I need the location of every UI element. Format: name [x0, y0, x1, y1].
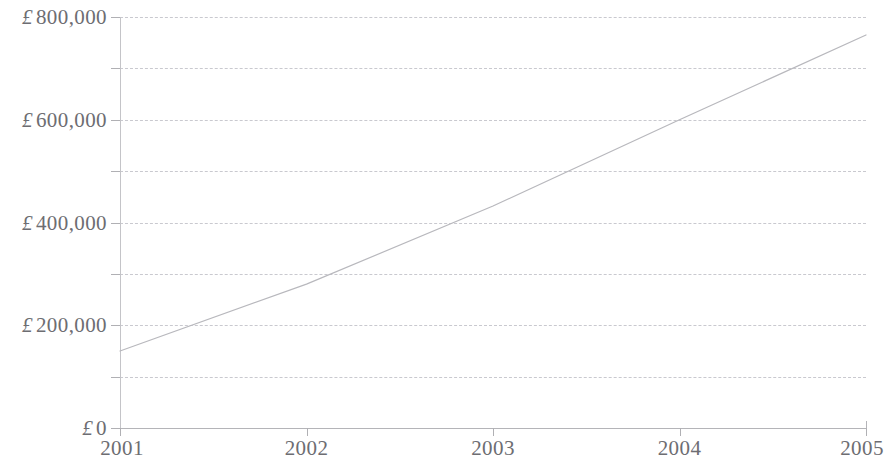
y-tick-600000 [111, 120, 120, 121]
y-tick-400000 [111, 223, 120, 224]
gridline-700000 [120, 68, 866, 69]
y-tick-700000 [111, 68, 120, 69]
gridline-400000 [120, 223, 866, 224]
currency-symbol-icon: £ [22, 211, 36, 235]
y-axis-label-value: 400,000 [36, 211, 107, 235]
gridline-200000 [120, 325, 866, 326]
y-axis-label-800000: £800,000 [22, 7, 107, 28]
plot-area [120, 17, 866, 428]
x-axis-label-2004: 2004 [658, 438, 702, 459]
y-axis-label-value: 600,000 [36, 108, 107, 132]
x-tick-2001 [120, 428, 121, 436]
gridline-300000 [120, 274, 866, 275]
y-axis-label-value: 200,000 [36, 313, 107, 337]
y-axis-label-400000: £400,000 [22, 213, 107, 234]
y-tick-800000 [111, 17, 120, 18]
y-tick-500000 [111, 171, 120, 172]
x-axis-label-2005: 2005 [840, 438, 884, 459]
y-axis-line [120, 17, 121, 428]
currency-symbol-icon: £ [22, 5, 36, 29]
x-tick-2003 [493, 428, 494, 436]
currency-symbol-icon: £ [82, 416, 96, 440]
currency-symbol-icon: £ [22, 108, 36, 132]
gridline-100000 [120, 377, 866, 378]
x-axis-label-2002: 2002 [285, 438, 329, 459]
x-axis-label-2001: 2001 [100, 438, 144, 459]
x-axis-label-2003: 2003 [471, 438, 515, 459]
x-tick-2005 [866, 428, 867, 436]
currency-symbol-icon: £ [22, 313, 36, 337]
line-chart: £800,000 £600,000 £400,000 £200,000 £0 2… [0, 0, 888, 464]
y-axis-label-600000: £600,000 [22, 110, 107, 131]
y-tick-100000 [111, 377, 120, 378]
y-axis-labels: £800,000 £600,000 £400,000 £200,000 £0 [0, 0, 107, 464]
y-tick-200000 [111, 325, 120, 326]
gridline-600000 [120, 120, 866, 121]
x-tick-2004 [680, 428, 681, 436]
gridline-500000 [120, 171, 866, 172]
y-axis-label-value: 800,000 [36, 5, 107, 29]
y-axis-label-200000: £200,000 [22, 315, 107, 336]
gridline-800000 [120, 17, 866, 18]
y-tick-300000 [111, 274, 120, 275]
x-tick-2002 [307, 428, 308, 436]
y-tick-0 [111, 428, 120, 429]
